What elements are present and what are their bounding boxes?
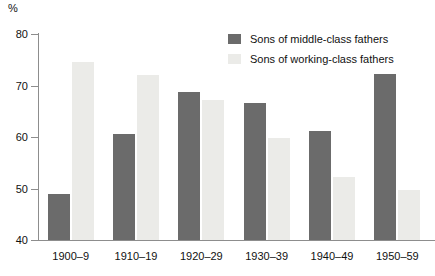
bar-working-class	[333, 177, 355, 240]
chart-legend: Sons of middle-class fathersSons of work…	[228, 30, 394, 70]
y-axis-tick	[31, 86, 38, 87]
bar-working-class	[398, 190, 420, 240]
bar-middle-class	[309, 131, 331, 240]
legend-item: Sons of working-class fathers	[228, 50, 394, 67]
bar-middle-class	[178, 92, 200, 240]
y-axis-tick-label: 80	[2, 28, 28, 40]
legend-item: Sons of middle-class fathers	[228, 30, 394, 47]
y-axis-tick	[31, 189, 38, 190]
bar-middle-class	[244, 103, 266, 240]
y-axis-tick-label: 40	[2, 234, 28, 246]
bar-working-class	[137, 75, 159, 240]
y-axis-tick	[31, 240, 38, 241]
legend-label: Sons of working-class fathers	[250, 53, 394, 65]
bar-working-class	[268, 138, 290, 240]
x-axis-category-label: 1950–59	[357, 250, 435, 262]
bar-middle-class	[48, 194, 70, 240]
x-axis-line	[31, 240, 435, 241]
legend-swatch-icon	[228, 54, 241, 64]
legend-swatch-icon	[228, 34, 241, 44]
y-axis-tick-label: 50	[2, 183, 28, 195]
y-axis-tick	[31, 34, 38, 35]
bar-middle-class	[113, 134, 135, 240]
y-axis-tick-label: 70	[2, 80, 28, 92]
bar-working-class	[202, 100, 224, 240]
bar-chart: % 4050607080 1900–91910–191920–291930–39…	[0, 0, 435, 276]
y-axis-tick-label: 60	[2, 131, 28, 143]
y-axis-unit-label: %	[8, 2, 18, 14]
bar-middle-class	[374, 74, 396, 240]
bar-working-class	[72, 62, 94, 240]
legend-label: Sons of middle-class fathers	[250, 33, 388, 45]
y-axis-tick	[31, 137, 38, 138]
